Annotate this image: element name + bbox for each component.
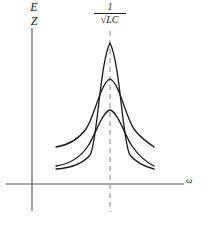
y-axis-denominator: Z bbox=[26, 15, 42, 27]
resonance-curve-figure: E Z ω 1 √LC bbox=[0, 0, 207, 225]
resonance-denominator: √LC bbox=[86, 15, 134, 25]
plot-canvas bbox=[0, 0, 207, 225]
resonance-numerator: 1 bbox=[86, 2, 134, 13]
resonance-radicand: LC bbox=[105, 13, 119, 25]
curve-broad-low-q bbox=[56, 110, 154, 166]
resonance-frequency-label: 1 √LC bbox=[86, 2, 134, 25]
x-axis-label: ω bbox=[186, 176, 192, 185]
curve-sharp-high-q bbox=[56, 43, 154, 169]
y-axis-label: E Z bbox=[26, 1, 42, 27]
y-axis-numerator: E bbox=[26, 1, 42, 13]
